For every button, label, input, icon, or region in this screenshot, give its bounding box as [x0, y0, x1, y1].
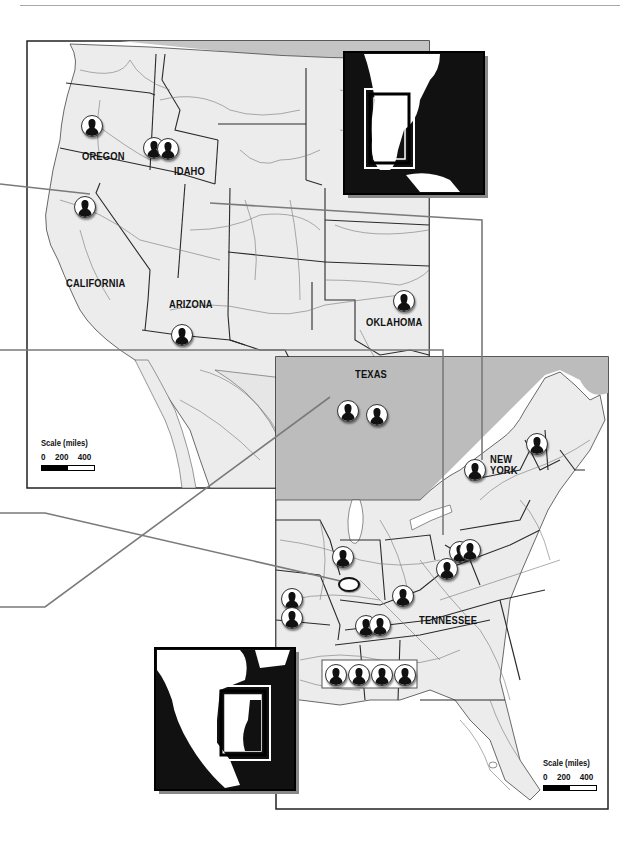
person-marker-icon[interactable] [171, 324, 193, 346]
person-marker-icon[interactable] [325, 664, 347, 686]
person-marker-icon[interactable] [526, 433, 548, 455]
person-marker-icon[interactable] [332, 546, 354, 568]
locator-inset-east-icon [155, 648, 299, 794]
east-map-panel [276, 357, 608, 809]
person-marker-icon[interactable] [371, 664, 393, 686]
scale-tick-200: 200 [557, 772, 571, 782]
state-label-oregon: OREGON [82, 150, 125, 162]
person-marker-icon[interactable] [366, 404, 388, 426]
locator-inset-west-icon [344, 52, 488, 198]
white-oval-marker-icon[interactable] [338, 577, 360, 592]
state-label-york: YORK [490, 465, 518, 476]
scale-bar-graphic [543, 785, 597, 791]
state-label-idaho: IDAHO [174, 165, 205, 177]
scale-tick-200: 200 [55, 452, 69, 462]
person-marker-icon[interactable] [459, 539, 481, 561]
state-label-new-york: NEW YORK [490, 454, 518, 476]
person-marker-icon[interactable] [369, 614, 391, 636]
scale-tick-400: 400 [580, 772, 594, 782]
state-label-arizona: ARIZONA [169, 298, 213, 310]
person-marker-icon[interactable] [157, 138, 179, 160]
scale-title: Scale (miles) [543, 758, 591, 768]
scale-tick-0: 0 [543, 772, 548, 782]
person-marker-icon[interactable] [281, 607, 303, 629]
scale-title: Scale (miles) [41, 438, 89, 448]
state-label-california: CALIFORNIA [66, 277, 125, 289]
person-marker-icon[interactable] [464, 459, 486, 481]
state-label-tennessee: TENNESSEE [419, 614, 477, 626]
person-marker-icon[interactable] [348, 664, 370, 686]
person-marker-icon[interactable] [436, 558, 458, 580]
scale-bar-west: Scale (miles) 0 200 400 [41, 438, 97, 471]
person-marker-icon[interactable] [394, 664, 416, 686]
person-marker-icon[interactable] [74, 196, 96, 218]
person-marker-icon[interactable] [392, 585, 414, 607]
scale-bar-graphic [41, 465, 95, 471]
state-label-oklahoma: OKLAHOMA [366, 316, 422, 328]
state-label-texas: TEXAS [355, 368, 387, 380]
scale-tick-0: 0 [41, 452, 46, 462]
scale-tick-400: 400 [78, 452, 92, 462]
person-marker-icon[interactable] [81, 115, 103, 137]
person-marker-icon[interactable] [393, 290, 415, 312]
scale-bar-east: Scale (miles) 0 200 400 [543, 758, 599, 791]
person-marker-icon[interactable] [337, 400, 359, 422]
